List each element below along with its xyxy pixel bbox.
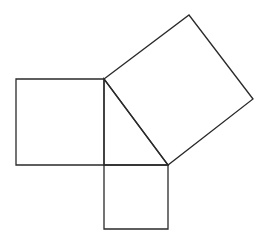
diagram-svg <box>0 0 268 243</box>
left-leg-square <box>16 79 104 165</box>
hypotenuse-square <box>104 15 253 165</box>
pythagorean-diagram <box>0 0 268 243</box>
right-triangle <box>104 79 168 165</box>
bottom-leg-square <box>104 165 168 229</box>
